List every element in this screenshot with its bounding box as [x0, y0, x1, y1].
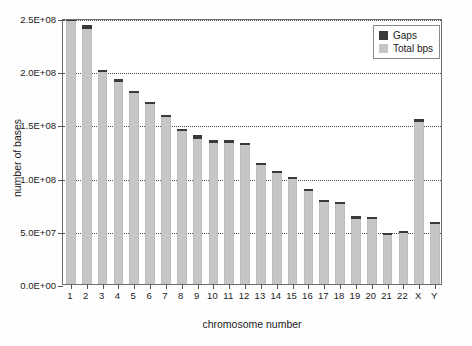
- bar-group: [161, 115, 171, 284]
- x-tick-mark: [103, 284, 104, 289]
- bar-group: [224, 140, 234, 284]
- bar-group: [114, 79, 124, 284]
- x-tick-label: 13: [255, 290, 266, 301]
- x-tick-mark: [261, 284, 262, 289]
- y-tick-mark: [58, 233, 63, 234]
- x-tick-mark: [198, 284, 199, 289]
- x-tick-mark: [229, 284, 230, 289]
- x-tick-label: 4: [115, 290, 120, 301]
- bar-segment-total-bps: [319, 202, 329, 284]
- y-axis-tick-labels: 0.0E+005.0E+071.0E+081.5E+082.0E+082.5E+…: [0, 19, 56, 285]
- bars-layer: [63, 20, 441, 284]
- y-tick-mark: [58, 20, 63, 21]
- legend-swatch-icon: [379, 44, 388, 53]
- x-tick-mark: [118, 284, 119, 289]
- x-tick-mark: [372, 284, 373, 289]
- bar-group: [414, 119, 424, 284]
- bar-group: [383, 233, 393, 284]
- bar-segment-total-bps: [272, 173, 282, 284]
- bar-segment-total-bps: [430, 224, 440, 284]
- legend-item: Gaps: [379, 30, 433, 41]
- bar-group: [351, 216, 361, 284]
- x-tick-label: 14: [270, 290, 281, 301]
- x-axis-tick-labels: 12345678910111213141516171819202122XY: [62, 290, 442, 306]
- x-tick-label: Y: [431, 290, 437, 301]
- x-tick-mark: [324, 284, 325, 289]
- bar-group: [430, 222, 440, 284]
- x-tick-mark: [403, 284, 404, 289]
- legend-label: Gaps: [393, 30, 417, 41]
- x-tick-mark: [308, 284, 309, 289]
- bar-segment-total-bps: [383, 235, 393, 284]
- y-tick-label: 5.0E+07: [20, 226, 56, 237]
- x-tick-mark: [356, 284, 357, 289]
- bar-group: [319, 200, 329, 284]
- y-tick-label: 2.0E+08: [20, 67, 56, 78]
- chart-legend: GapsTotal bps: [373, 25, 440, 59]
- bar-group: [209, 140, 219, 284]
- x-tick-mark: [182, 284, 183, 289]
- x-tick-label: 19: [350, 290, 361, 301]
- legend-label: Total bps: [393, 43, 433, 54]
- x-tick-label: 22: [397, 290, 408, 301]
- y-tick-label: 0.0E+00: [20, 280, 56, 291]
- x-tick-mark: [435, 284, 436, 289]
- y-tick-mark: [58, 73, 63, 74]
- bar-segment-total-bps: [161, 117, 171, 284]
- x-tick-label: 15: [286, 290, 297, 301]
- bar-group: [367, 217, 377, 284]
- x-tick-label: 21: [381, 290, 392, 301]
- x-tick-label: 9: [194, 290, 199, 301]
- x-tick-mark: [277, 284, 278, 289]
- x-tick-mark: [71, 284, 72, 289]
- bar-segment-total-bps: [114, 82, 124, 284]
- x-tick-mark: [293, 284, 294, 289]
- bar-segment-total-bps: [240, 145, 250, 284]
- y-tick-mark: [58, 126, 63, 127]
- bar-segment-total-bps: [209, 143, 219, 285]
- x-tick-label: 1: [67, 290, 72, 301]
- legend-item: Total bps: [379, 43, 433, 54]
- bar-group: [240, 143, 250, 285]
- bar-segment-total-bps: [367, 219, 377, 284]
- x-tick-label: 20: [365, 290, 376, 301]
- x-tick-label: 18: [334, 290, 345, 301]
- x-tick-mark: [150, 284, 151, 289]
- bar-segment-total-bps: [304, 191, 314, 284]
- bar-group: [399, 231, 409, 284]
- bar-group: [177, 129, 187, 284]
- x-tick-mark: [419, 284, 420, 289]
- x-tick-label: 2: [83, 290, 88, 301]
- bar-segment-total-bps: [66, 21, 76, 284]
- bar-group: [256, 163, 266, 284]
- x-tick-label: 8: [178, 290, 183, 301]
- x-tick-label: 3: [99, 290, 104, 301]
- bar-segment-total-bps: [414, 122, 424, 284]
- x-axis-title: chromosome number: [62, 318, 442, 330]
- x-tick-label: 10: [207, 290, 218, 301]
- x-tick-mark: [87, 284, 88, 289]
- bar-group: [193, 135, 203, 284]
- bar-segment-total-bps: [335, 204, 345, 284]
- legend-swatch-icon: [379, 31, 388, 40]
- bar-group: [66, 20, 76, 284]
- x-tick-label: 6: [146, 290, 151, 301]
- x-tick-label: 17: [318, 290, 329, 301]
- y-tick-mark: [58, 286, 63, 287]
- x-tick-label: 11: [223, 290, 233, 301]
- bar-segment-total-bps: [129, 93, 139, 284]
- bar-segment-total-bps: [98, 72, 108, 284]
- bar-group: [145, 102, 155, 284]
- bar-group: [82, 25, 92, 284]
- bar-group: [272, 171, 282, 284]
- x-tick-mark: [388, 284, 389, 289]
- y-tick-label: 1.5E+08: [20, 120, 56, 131]
- bar-segment-total-bps: [399, 233, 409, 284]
- bar-segment-total-bps: [145, 104, 155, 284]
- x-tick-mark: [340, 284, 341, 289]
- bar-group: [129, 91, 139, 284]
- bar-segment-total-bps: [224, 143, 234, 285]
- bar-group: [335, 202, 345, 284]
- bar-segment-total-bps: [351, 219, 361, 284]
- bar-group: [304, 189, 314, 284]
